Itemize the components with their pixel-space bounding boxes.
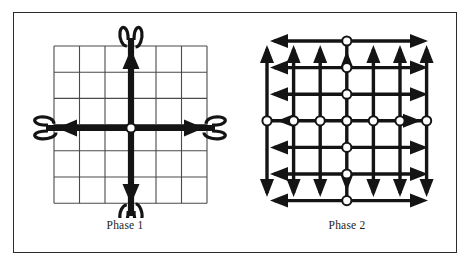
- figure-frame: Phase 1: [13, 12, 457, 253]
- phase-1-arrowhead-down: [123, 184, 140, 204]
- phase-1-arrowhead-left: [57, 120, 77, 137]
- phase-1-center-node: [126, 123, 135, 132]
- phase-1-caption: Phase 1: [14, 219, 236, 231]
- phase-1-diagram: [14, 13, 236, 218]
- phase-2-caption: Phase 2: [236, 219, 458, 231]
- phase-1-arrowhead-up: [123, 49, 140, 69]
- panel-phase-1: Phase 1: [14, 13, 236, 254]
- panel-phase-2: Phase 2: [236, 13, 458, 254]
- figure-page: Phase 1: [0, 0, 474, 272]
- phase-2-diagram: [236, 13, 458, 218]
- phase-1-arrowhead-right: [184, 120, 204, 137]
